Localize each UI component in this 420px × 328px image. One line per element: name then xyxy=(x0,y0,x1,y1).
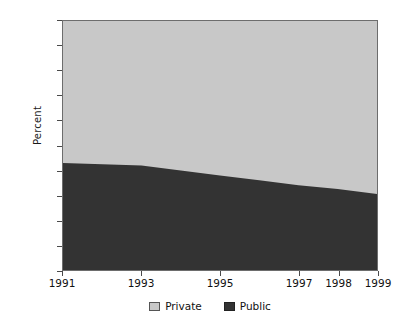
stacked-area-svg xyxy=(63,21,377,270)
public-swatch-icon xyxy=(224,302,235,311)
private-swatch-icon xyxy=(149,302,160,311)
x-axis-tick-label: 1991 xyxy=(32,277,92,289)
x-axis-tick-label: 1993 xyxy=(111,277,171,289)
x-axis-tick-mark xyxy=(62,271,63,276)
legend-item-private[interactable]: Private xyxy=(149,300,202,312)
x-axis-tick-label: 1999 xyxy=(348,277,408,289)
x-axis-tick-mark xyxy=(339,271,340,276)
x-axis-tick-mark xyxy=(378,271,379,276)
legend-item-public[interactable]: Public xyxy=(224,300,271,312)
y-axis-title: Percent xyxy=(32,81,43,171)
legend-label-private: Private xyxy=(165,300,202,312)
chart-legend: Private Public xyxy=(0,300,420,312)
area-chart: Percent 0102030405060708090100 199119931… xyxy=(0,0,420,328)
legend-label-public: Public xyxy=(240,300,271,312)
x-axis-tick-mark xyxy=(220,271,221,276)
x-axis-tick-mark xyxy=(141,271,142,276)
x-axis-tick-label: 1995 xyxy=(190,277,250,289)
plot-area xyxy=(62,20,378,271)
x-axis-tick-mark xyxy=(299,271,300,276)
